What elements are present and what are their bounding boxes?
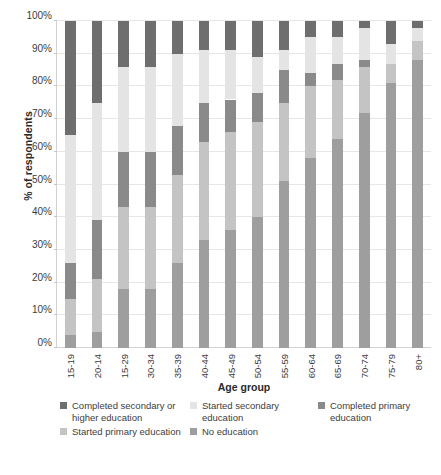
bar-segment[interactable] [386, 83, 397, 348]
y-tick-label: 50% [32, 173, 52, 184]
bar-segment[interactable] [412, 60, 423, 348]
legend-item[interactable]: Completed secondary or higher education [60, 400, 184, 423]
bar-column[interactable]: 30-34 [145, 21, 156, 348]
bar-segment[interactable] [199, 50, 210, 102]
bar-segment[interactable] [252, 21, 263, 57]
bar-column[interactable]: 35-39 [172, 21, 183, 348]
bar-segment[interactable] [145, 67, 156, 152]
bar-column[interactable]: 50-54 [252, 21, 263, 348]
bar-segment[interactable] [92, 21, 103, 103]
bar-segment[interactable] [118, 21, 129, 67]
bar-segment[interactable] [332, 80, 343, 139]
bar-column[interactable]: 65-69 [332, 21, 343, 348]
y-tick-mark [54, 314, 57, 315]
bar-segment[interactable] [65, 21, 76, 135]
bar-segment[interactable] [92, 332, 103, 348]
bar-segment[interactable] [92, 103, 103, 221]
bar-segment[interactable] [65, 135, 76, 263]
bar-segment[interactable] [332, 37, 343, 63]
bar-stack [252, 21, 263, 348]
bar-column[interactable]: 20-14 [92, 21, 103, 348]
bar-column[interactable]: 15-29 [118, 21, 129, 348]
bar-segment[interactable] [199, 103, 210, 142]
bar-segment[interactable] [92, 279, 103, 331]
bar-segment[interactable] [279, 21, 290, 50]
bar-segment[interactable] [172, 21, 183, 54]
bar-segment[interactable] [172, 175, 183, 263]
legend-item[interactable]: Started secondary education [190, 400, 314, 423]
bar-segment[interactable] [225, 50, 236, 99]
x-tick-label: 65-69 [332, 354, 343, 378]
x-tick-label: 15-29 [118, 354, 129, 378]
bar-segment[interactable] [172, 54, 183, 126]
bar-segment[interactable] [412, 28, 423, 41]
bar-column[interactable]: 15-19 [65, 21, 76, 348]
bar-segment[interactable] [199, 21, 210, 50]
y-tick-label: 80% [32, 75, 52, 86]
x-tick-label: 70-74 [359, 354, 370, 378]
bar-segment[interactable] [279, 70, 290, 103]
bar-segment[interactable] [279, 181, 290, 348]
bar-segment[interactable] [145, 207, 156, 289]
y-tick-label: 30% [32, 238, 52, 249]
bar-segment[interactable] [65, 335, 76, 348]
legend-swatch-icon [60, 402, 67, 409]
bar-segment[interactable] [305, 158, 316, 348]
legend-label: No education [202, 426, 258, 438]
bar-segment[interactable] [92, 220, 103, 279]
bar-segment[interactable] [252, 93, 263, 122]
bar-segment[interactable] [332, 21, 343, 37]
bar-segment[interactable] [225, 132, 236, 230]
bar-segment[interactable] [332, 139, 343, 348]
bar-segment[interactable] [412, 21, 423, 28]
bar-segment[interactable] [359, 21, 370, 28]
bar-segment[interactable] [118, 67, 129, 152]
bar-segment[interactable] [386, 21, 397, 44]
bar-segment[interactable] [118, 207, 129, 289]
bar-segment[interactable] [305, 86, 316, 158]
bar-segment[interactable] [199, 240, 210, 348]
bar-segment[interactable] [225, 21, 236, 50]
bar-column[interactable]: 55-59 [279, 21, 290, 348]
bar-segment[interactable] [145, 289, 156, 348]
bar-segment[interactable] [172, 263, 183, 348]
bar-segment[interactable] [305, 73, 316, 86]
legend-item[interactable]: Started primary education [60, 426, 181, 438]
bar-segment[interactable] [386, 44, 397, 64]
bar-segment[interactable] [386, 64, 397, 84]
bar-segment[interactable] [225, 100, 236, 133]
bar-segment[interactable] [252, 57, 263, 93]
bar-segment[interactable] [65, 263, 76, 299]
bar-segment[interactable] [359, 67, 370, 113]
bar-segment[interactable] [65, 299, 76, 335]
bar-segment[interactable] [172, 126, 183, 175]
bar-segment[interactable] [359, 113, 370, 348]
legend-swatch-icon [318, 402, 325, 409]
bar-segment[interactable] [359, 28, 370, 61]
bar-column[interactable]: 45-49 [225, 21, 236, 348]
y-tick-mark [54, 85, 57, 86]
bar-column[interactable]: 75-79 [386, 21, 397, 348]
bar-segment[interactable] [412, 41, 423, 61]
bar-segment[interactable] [252, 122, 263, 217]
bar-column[interactable]: 60-64 [305, 21, 316, 348]
bar-segment[interactable] [252, 217, 263, 348]
bar-segment[interactable] [145, 21, 156, 67]
bar-segment[interactable] [305, 37, 316, 73]
bar-segment[interactable] [279, 50, 290, 70]
bar-segment[interactable] [305, 21, 316, 37]
bar-segment[interactable] [118, 289, 129, 348]
bar-column[interactable]: 70-74 [359, 21, 370, 348]
bar-segment[interactable] [279, 103, 290, 181]
bar-segment[interactable] [225, 230, 236, 348]
legend-item[interactable]: Completed primary education [318, 400, 430, 423]
bar-stack [225, 21, 236, 348]
bar-column[interactable]: 80+ [412, 21, 423, 348]
bar-segment[interactable] [359, 60, 370, 67]
legend-item[interactable]: No education [190, 426, 258, 438]
bar-segment[interactable] [199, 142, 210, 240]
bar-segment[interactable] [145, 152, 156, 208]
bar-segment[interactable] [332, 64, 343, 80]
bar-column[interactable]: 40-44 [199, 21, 210, 348]
bar-segment[interactable] [118, 152, 129, 208]
